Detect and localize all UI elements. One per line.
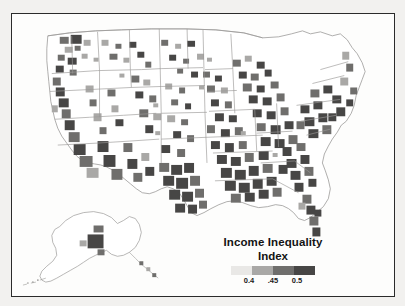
legend-title-line1: Income Inequality — [203, 236, 343, 250]
legend-tick-2: 0.5 — [292, 276, 302, 285]
figure-frame: Income Inequality Index 0.4 .45 0.5 — [11, 13, 395, 297]
legend-swatch-0 — [231, 266, 252, 275]
legend-swatch-2 — [273, 266, 294, 275]
legend-swatch-3 — [294, 266, 315, 275]
legend-inner: Income Inequality Index 0.4 .45 0.5 — [203, 236, 343, 287]
alaska-inset — [23, 212, 158, 285]
legend-tick-0: 0.4 — [244, 276, 254, 285]
legend-colorbar — [231, 266, 315, 275]
legend-swatch-1 — [252, 266, 273, 275]
us-outline — [47, 29, 365, 221]
map-layer-states — [47, 29, 365, 221]
legend-tick-1: .45 — [268, 276, 278, 285]
legend-ticks: 0.4 .45 0.5 — [223, 276, 323, 287]
legend-title-line2: Index — [203, 250, 343, 264]
